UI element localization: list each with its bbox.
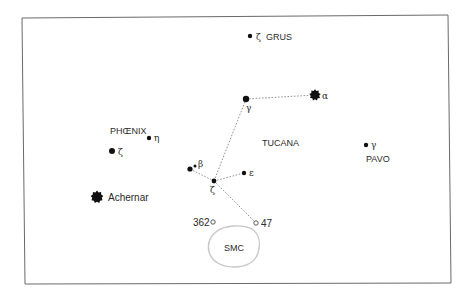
open-circle-icon [254, 221, 258, 225]
star-greek-label: β [198, 159, 203, 169]
star-dot-icon [147, 136, 151, 140]
star-greek-label: γ [371, 140, 376, 150]
named-star-labels: Achernar [108, 192, 149, 203]
star-dot-icon [212, 179, 217, 184]
open-circle-icon [211, 220, 215, 224]
star-greek-label: ζ [210, 185, 215, 195]
star-greek-label: ε [249, 168, 254, 178]
star-greek-label: η [154, 133, 159, 143]
star-greek-label: α [322, 91, 328, 101]
star-greek-label: ζ [118, 147, 123, 157]
star-dot-icon [194, 165, 197, 168]
star-beta2-tuc [194, 165, 197, 168]
star-dot-icon [248, 34, 252, 38]
star-chart: SMC ζγαηζγβζε 36247 GRUSPHŒNIXTUCANAPAVO… [0, 0, 468, 297]
constellation-label-tucana: TUCANA [262, 138, 299, 148]
star-greek-label: ζ [256, 32, 261, 42]
star-greek-label: γ [246, 103, 251, 113]
cluster-label: 362 [193, 217, 210, 228]
cluster-label: 47 [261, 218, 273, 229]
constellation-label-pavo: PAVO [366, 154, 390, 164]
constellation-label-grus: GRUS [266, 32, 292, 42]
star-dot-icon [187, 166, 192, 171]
constellation-label-phoenix: PHŒNIX [110, 126, 147, 136]
star-dot-icon [242, 171, 246, 175]
star-dot-icon [364, 143, 368, 147]
star-dot-icon [243, 96, 249, 102]
star-name-achernar: Achernar [108, 192, 149, 203]
smc-label: SMC [224, 243, 245, 253]
star-dot-icon [109, 148, 115, 154]
